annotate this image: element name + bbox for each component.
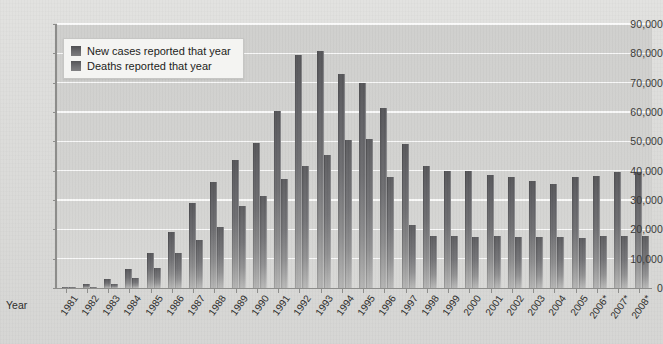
bar-deaths [111,284,118,288]
y-axis-tick-label: 50,000 [611,135,663,147]
x-axis-tick-label: 2006* [587,293,611,321]
x-axis-tick [257,289,258,293]
x-axis-tick [129,289,130,293]
x-axis-tick-label: 1998 [419,293,441,318]
x-axis-tick [533,289,534,293]
x-axis-tick [406,289,407,293]
bar-deaths [600,236,607,288]
bar-deaths [387,177,394,288]
x-axis-tick-label: 2000 [462,293,484,318]
legend-label-new-cases: New cases reported that year [87,45,231,57]
x-axis-tick [491,289,492,293]
x-axis-tick-label: 2002 [504,293,526,318]
x-axis-tick [151,289,152,293]
y-axis-tick [53,229,57,230]
bar-deaths [557,237,564,288]
bar-deaths [366,139,373,288]
legend-label-deaths: Deaths reported that year [87,60,212,72]
x-axis-tick [554,289,555,293]
bar-new-cases [104,279,111,288]
x-axis-tick-label: 1984 [122,293,144,318]
x-axis-tick [87,289,88,293]
x-axis-tick [193,289,194,293]
x-axis-title: Year [6,299,27,311]
bar-new-cases [380,108,387,288]
x-axis-tick-label: 1983 [100,293,122,318]
bar-new-cases [232,160,239,288]
bar-new-cases [295,55,302,288]
y-axis-tick-label: 60,000 [611,106,663,118]
bar-new-cases [487,175,494,288]
x-axis: 1981198219831984198519861987198819891990… [55,289,650,344]
x-axis-tick-label: 2001 [483,293,505,318]
bar-new-cases [359,83,366,288]
x-axis-tick-label: 1988 [207,293,229,318]
x-axis-tick-label: 1997 [398,293,420,318]
bar-deaths [260,196,267,288]
bar-new-cases [423,166,430,288]
x-axis-tick-label: 1990 [249,293,271,318]
bar-deaths [472,237,479,288]
y-axis-tick-label: 80,000 [611,47,663,59]
x-axis-tick [448,289,449,293]
x-axis-tick-label: 1987 [185,293,207,318]
x-axis-tick [427,289,428,293]
bar-new-cases [317,51,324,288]
bar-deaths [409,225,416,288]
x-axis-tick-label: 1982 [79,293,101,318]
bar-deaths [324,155,331,288]
bar-deaths [154,268,161,288]
bar-new-cases [189,203,196,288]
y-axis-tick [53,259,57,260]
bar-deaths [90,287,97,288]
bar-deaths [345,140,352,288]
x-axis-tick [639,289,640,293]
x-axis-tick-label: 1981 [58,293,80,318]
bar-new-cases [444,171,451,288]
x-axis-tick-label: 1986 [164,293,186,318]
legend-item-new-cases: New cases reported that year [71,43,231,58]
legend-item-deaths: Deaths reported that year [71,58,231,73]
bar-deaths [281,179,288,288]
x-axis-tick-label: 1994 [334,293,356,318]
bar-new-cases [593,176,600,288]
bar-new-cases [529,181,536,288]
y-axis-tick-label: 30,000 [611,194,663,206]
x-axis-tick-label: 1985 [143,293,165,318]
x-axis-tick [172,289,173,293]
x-axis-tick-label: 2008* [629,293,653,321]
chart-figure: 010,00020,00030,00040,00050,00060,00070,… [0,0,663,344]
bar-new-cases [550,184,557,288]
bar-new-cases [338,74,345,288]
legend-swatch-new-cases [71,46,81,56]
bar-deaths [217,227,224,288]
bar-deaths [302,166,309,288]
x-axis-tick [236,289,237,293]
bar-deaths [196,240,203,288]
bar-new-cases [125,269,132,288]
y-axis-tick-label: 70,000 [611,77,663,89]
y-axis-tick-label: 40,000 [611,165,663,177]
y-axis-tick [53,83,57,84]
bar-new-cases [402,144,409,288]
bar-new-cases [572,177,579,288]
bar-deaths [515,237,522,288]
bar-deaths [69,287,76,288]
y-axis-tick [53,112,57,113]
x-axis-tick-label: 2004 [547,293,569,318]
x-axis-tick-label: 1995 [355,293,377,318]
y-axis-tick-label: 20,000 [611,223,663,235]
x-axis-tick [278,289,279,293]
bar-new-cases [465,171,472,288]
bar-new-cases [147,253,154,288]
bar-deaths [579,238,586,288]
bar-deaths [536,237,543,288]
y-axis-tick-label: 90,000 [611,18,663,30]
bar-new-cases [508,177,515,288]
x-axis-tick [384,289,385,293]
x-axis-tick-label: 1999 [440,293,462,318]
y-axis-tick-label: 10,000 [611,253,663,265]
x-axis-tick [469,289,470,293]
x-axis-tick [321,289,322,293]
x-axis-tick-label: 1993 [313,293,335,318]
